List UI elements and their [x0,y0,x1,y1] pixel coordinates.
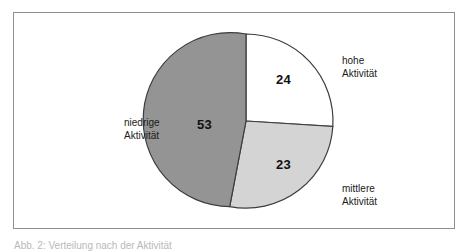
pie-label-hohe-line1: hohe [342,55,364,66]
pie-label-niedrige-line1: niedrige [124,117,160,128]
pie-label-niedrige-aktivitaet: niedrige Aktivität [124,116,160,142]
pie-value-mittlere-aktivitaet: 23 [276,157,291,172]
pie-label-niedrige-line2: Aktivität [124,129,160,142]
pie-chart: 24 23 53 hohe Aktivität mittlere Aktivit… [14,13,456,230]
pie-label-mittlere-line1: mittlere [342,183,375,194]
pie-value-niedrige-aktivitaet: 53 [197,117,212,132]
pie-label-mittlere-aktivitaet: mittlere Aktivität [342,182,377,208]
pie-label-hohe-line2: Aktivität [342,67,377,80]
pie-label-hohe-aktivitaet: hohe Aktivität [342,54,377,80]
figure-caption: Abb. 2: Verteilung nach der Aktivität [14,240,464,252]
pie-chart-svg [14,13,456,230]
pie-value-hohe-aktivitaet: 24 [276,72,291,87]
figure-frame: 24 23 53 hohe Aktivität mittlere Aktivit… [13,12,455,229]
pie-label-mittlere-line2: Aktivität [342,195,377,208]
